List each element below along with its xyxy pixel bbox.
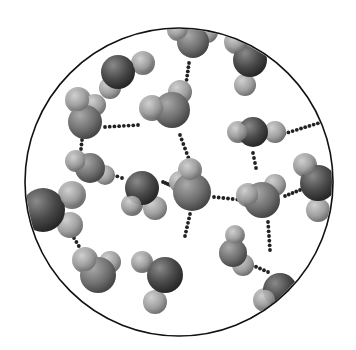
water-molecule [227, 117, 286, 147]
hydrogen-atom [295, 155, 315, 175]
hydrogen-atom [227, 227, 244, 244]
hydrogen-atom [234, 74, 256, 96]
hydrogen-atom [180, 160, 200, 180]
hydrogen-atom [133, 53, 153, 73]
hydrogen-atom [238, 185, 258, 205]
water-molecules-illustration [0, 0, 356, 350]
hydrogen-atom [141, 97, 163, 119]
oxygen-atom [147, 257, 183, 293]
hydrogen-atom [133, 253, 152, 272]
hydrogen-atom [229, 123, 248, 142]
hydrogen-atom [60, 183, 84, 207]
hydrogen-atom [67, 152, 86, 171]
oxygen-atom [101, 55, 135, 89]
hydrogen-atom [143, 290, 167, 314]
hydrogen-atom [306, 198, 330, 222]
hydrogen-atom [67, 89, 89, 111]
hydrogen-atom [123, 196, 142, 215]
oxygen-atom [68, 105, 102, 139]
hydrogen-atom [74, 249, 96, 271]
